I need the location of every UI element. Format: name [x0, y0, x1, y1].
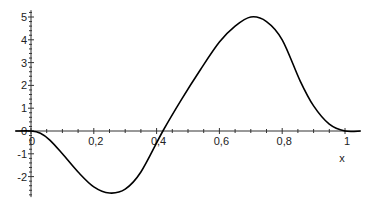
y-tick-label: 5 — [21, 11, 27, 23]
x-tick-label: 0 — [29, 135, 35, 147]
x-tick-label: 0,4 — [151, 135, 166, 147]
x-axis-label: x — [339, 152, 345, 164]
y-tick-label: 4 — [21, 34, 27, 46]
x-tick-label: 1 — [344, 135, 350, 147]
x-tick-label: 0,6 — [214, 135, 229, 147]
y-tick-label: 3 — [21, 57, 27, 69]
x-tick-label: 0,8 — [277, 135, 292, 147]
x-tick-label: 0,2 — [88, 135, 103, 147]
y-tick-label: 1 — [21, 102, 27, 114]
y-tick-label: -1 — [17, 148, 27, 160]
data-series-line — [15, 17, 360, 193]
y-tick-label: -2 — [17, 171, 27, 183]
y-tick-label: 2 — [21, 79, 27, 91]
axis-ticks — [28, 12, 345, 194]
axes — [15, 10, 360, 197]
line-chart: 00,20,40,60,81-2-1012345 x — [0, 0, 378, 207]
